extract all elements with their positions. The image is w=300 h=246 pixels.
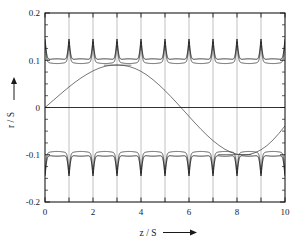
y-tick-label: -0.2: [26, 197, 40, 207]
y-axis-label: r / S: [6, 112, 16, 128]
x-axis-label: z / S: [140, 228, 157, 238]
y-tick-label: 0: [36, 103, 41, 113]
chart-figure: 0246810-0.2-0.100.10.2 z / S r / S Perio…: [0, 0, 300, 246]
x-tick-label: 2: [91, 207, 96, 217]
x-tick-label: 6: [187, 207, 192, 217]
x-tick-label: 0: [43, 207, 48, 217]
x-tick-label: 4: [139, 207, 144, 217]
x-tick-label: 10: [281, 207, 291, 217]
plot-canvas: 0246810-0.2-0.100.10.2 z / S r / S: [0, 0, 300, 246]
x-tick-label: 8: [235, 207, 240, 217]
y-tick-label: 0.1: [29, 56, 40, 66]
y-tick-label: -0.1: [26, 150, 40, 160]
y-tick-label: 0.2: [29, 8, 40, 18]
